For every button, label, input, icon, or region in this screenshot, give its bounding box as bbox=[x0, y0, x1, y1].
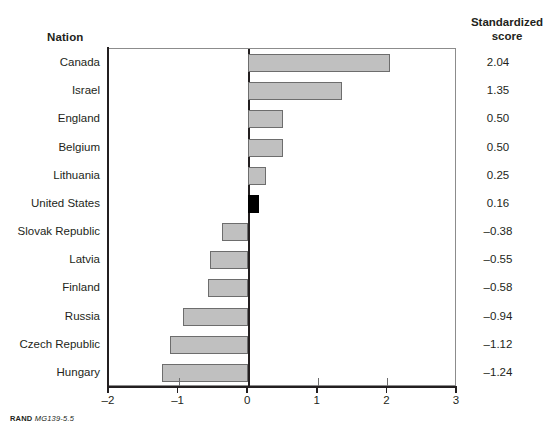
plot-area bbox=[108, 48, 456, 386]
bar-hungary[interactable] bbox=[162, 364, 248, 382]
x-tick-mark bbox=[316, 386, 318, 393]
score-value: 0.25 bbox=[460, 161, 536, 189]
chart-row bbox=[109, 162, 455, 190]
nation-label: Hungary bbox=[0, 358, 100, 386]
bar-russia[interactable] bbox=[183, 308, 248, 326]
chart-row bbox=[109, 303, 455, 331]
score-value: –0.94 bbox=[460, 302, 536, 330]
chart-row bbox=[109, 359, 455, 387]
bar-belgium[interactable] bbox=[248, 139, 283, 157]
source-publisher: RAND bbox=[10, 414, 32, 423]
score-value: 0.16 bbox=[460, 189, 536, 217]
column-header-score-line1: Standardized bbox=[460, 16, 554, 30]
bar-canada[interactable] bbox=[248, 54, 390, 72]
bar-england[interactable] bbox=[248, 110, 283, 128]
score-label-column: 2.041.350.500.500.250.16–0.38–0.55–0.58–… bbox=[460, 48, 554, 386]
chart-row bbox=[109, 77, 455, 105]
chart-row bbox=[109, 331, 455, 359]
nation-label: Russia bbox=[0, 302, 100, 330]
x-tick-mark bbox=[386, 386, 388, 393]
score-value: –0.55 bbox=[460, 245, 536, 273]
chart-row bbox=[109, 49, 455, 77]
nation-label: England bbox=[0, 104, 100, 132]
y-axis-line bbox=[107, 47, 109, 388]
column-header-standardized-score: Standardized score bbox=[460, 16, 554, 43]
score-value: –1.24 bbox=[460, 358, 536, 386]
bar-latvia[interactable] bbox=[210, 251, 248, 269]
x-tick-mark bbox=[107, 386, 109, 393]
chart-figure: Nation Standardized score CanadaIsraelEn… bbox=[0, 0, 556, 437]
chart-row bbox=[109, 246, 455, 274]
nation-label: Latvia bbox=[0, 245, 100, 273]
bar-lithuania[interactable] bbox=[248, 167, 265, 185]
x-axis-line bbox=[107, 386, 457, 388]
x-tick-label: 0 bbox=[227, 394, 267, 406]
score-value: 2.04 bbox=[460, 48, 536, 76]
x-tick-mark bbox=[246, 386, 248, 393]
x-tick-label: 1 bbox=[297, 394, 337, 406]
source-code: MG139-5.5 bbox=[35, 414, 74, 423]
x-tick-label: 2 bbox=[366, 394, 406, 406]
nation-label: Israel bbox=[0, 76, 100, 104]
x-tick-label: –2 bbox=[88, 394, 128, 406]
x-tick-mark bbox=[455, 386, 457, 393]
source-note: RAND MG139-5.5 bbox=[10, 414, 74, 423]
score-value: –0.58 bbox=[460, 273, 536, 301]
bar-slovak-republic[interactable] bbox=[222, 223, 248, 241]
column-header-nation: Nation bbox=[47, 31, 83, 43]
nation-label: Belgium bbox=[0, 133, 100, 161]
score-value: 0.50 bbox=[460, 133, 536, 161]
bar-united-states[interactable] bbox=[248, 195, 259, 213]
score-value: –0.38 bbox=[460, 217, 536, 245]
bar-czech-republic[interactable] bbox=[170, 336, 248, 354]
nation-label: Czech Republic bbox=[0, 330, 100, 358]
score-value: 0.50 bbox=[460, 104, 536, 132]
bar-finland[interactable] bbox=[208, 279, 248, 297]
x-tick-mark bbox=[177, 386, 179, 393]
nation-label: Slovak Republic bbox=[0, 217, 100, 245]
x-tick-label: 3 bbox=[436, 394, 476, 406]
score-value: 1.35 bbox=[460, 76, 536, 104]
chart-row bbox=[109, 218, 455, 246]
nation-label-column: CanadaIsraelEnglandBelgiumLithuaniaUnite… bbox=[0, 48, 100, 386]
nation-label: Canada bbox=[0, 48, 100, 76]
nation-label: Lithuania bbox=[0, 161, 100, 189]
chart-row bbox=[109, 134, 455, 162]
nation-label: Finland bbox=[0, 273, 100, 301]
bar-israel[interactable] bbox=[248, 82, 342, 100]
score-value: –1.12 bbox=[460, 330, 536, 358]
chart-row bbox=[109, 274, 455, 302]
column-header-score-line2: score bbox=[460, 30, 554, 44]
nation-label: United States bbox=[0, 189, 100, 217]
chart-row bbox=[109, 105, 455, 133]
x-tick-label: –1 bbox=[158, 394, 198, 406]
chart-row bbox=[109, 190, 455, 218]
